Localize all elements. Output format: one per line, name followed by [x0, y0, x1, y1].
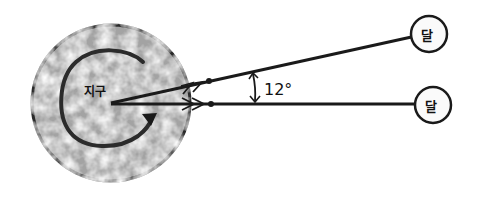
- moon-upper-label: 달: [421, 28, 433, 43]
- angle-arc-icon: [253, 74, 255, 101]
- moon-lower: 달: [415, 87, 451, 123]
- moon-upper: 달: [411, 16, 447, 52]
- angle-label: 12°: [264, 80, 292, 99]
- dot-lower: [208, 101, 214, 107]
- earth-label: 지구: [84, 84, 106, 99]
- earth-moon-diagram: 지구 12° 달 달: [0, 0, 482, 198]
- dot-upper: [206, 78, 212, 84]
- moon-lower-label: 달: [425, 99, 437, 114]
- angle-marker: 12°: [249, 73, 292, 102]
